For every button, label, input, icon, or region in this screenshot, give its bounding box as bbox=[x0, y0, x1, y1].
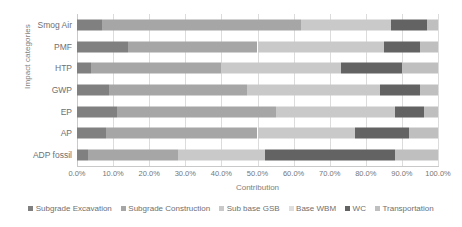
bar-segment bbox=[117, 106, 276, 117]
x-axis-tick-labels: 0.0%10.0%20.0%30.0%40.0%50.0%60.0%70.0%8… bbox=[77, 169, 438, 183]
plot-area bbox=[77, 14, 438, 166]
bar-segment bbox=[77, 85, 109, 96]
legend-swatch-icon bbox=[345, 206, 350, 211]
legend-item[interactable]: Transportation bbox=[375, 204, 434, 213]
bar-row bbox=[77, 106, 438, 117]
x-axis-tick-label: 100.0% bbox=[425, 169, 450, 178]
bar-segment bbox=[420, 41, 438, 52]
bar-segment bbox=[77, 19, 102, 30]
x-axis-tick-label: 0.0% bbox=[68, 169, 85, 178]
bar-segment bbox=[247, 85, 381, 96]
legend-label: Transportation bbox=[382, 204, 433, 213]
bar-segment bbox=[77, 150, 88, 161]
legend-item[interactable]: Base WBM bbox=[289, 204, 337, 213]
y-axis-tick-label: AP bbox=[8, 128, 72, 138]
legend-swatch-icon bbox=[28, 206, 33, 211]
bar-row bbox=[77, 41, 438, 52]
bar-segment bbox=[77, 128, 106, 139]
y-axis-tick-label: GWP bbox=[8, 85, 72, 95]
x-axis-tick-label: 50.0% bbox=[247, 169, 268, 178]
y-axis-tick-label: ADP fossil bbox=[8, 150, 72, 160]
bar-segment bbox=[128, 41, 258, 52]
legend-item[interactable]: Sub base GSB bbox=[219, 204, 279, 213]
bar-segment bbox=[109, 85, 246, 96]
bar-segment bbox=[276, 106, 395, 117]
bar-segment bbox=[384, 41, 420, 52]
bar-segment bbox=[391, 19, 427, 30]
bar-segment bbox=[258, 128, 355, 139]
bar-segment bbox=[77, 41, 128, 52]
bar-row bbox=[77, 128, 438, 139]
bar-segment bbox=[102, 19, 301, 30]
legend-item[interactable]: Subgrade Excavation bbox=[28, 204, 112, 213]
y-axis-tick-label: HTP bbox=[8, 63, 72, 73]
bar-segment bbox=[380, 85, 420, 96]
bar-segment bbox=[427, 19, 438, 30]
bar-segment bbox=[395, 106, 424, 117]
bar-segment bbox=[106, 128, 258, 139]
bar-segment bbox=[395, 150, 438, 161]
x-axis-tick-label: 10.0% bbox=[102, 169, 123, 178]
bar-segment bbox=[88, 150, 178, 161]
x-axis-tick-label: 70.0% bbox=[319, 169, 340, 178]
x-axis-tick-label: 40.0% bbox=[211, 169, 232, 178]
legend-swatch-icon bbox=[375, 206, 380, 211]
x-axis-tick-label: 60.0% bbox=[283, 169, 304, 178]
x-axis-tick-label: 80.0% bbox=[355, 169, 376, 178]
bar-segment bbox=[91, 63, 221, 74]
y-axis-tick-label: Smog Air bbox=[8, 20, 72, 30]
x-axis-line bbox=[77, 166, 439, 167]
bar-segment bbox=[178, 150, 265, 161]
legend-item[interactable]: Subgrade Construction bbox=[121, 204, 210, 213]
y-axis-tick-labels: ADP fossilAPEPGWPHTPPMFSmog Air bbox=[8, 14, 72, 166]
legend-label: WC bbox=[353, 204, 366, 213]
x-axis-tick-label: 20.0% bbox=[139, 169, 160, 178]
stacked-bar-chart: Impact categories ADP fossilAPEPGWPHTPPM… bbox=[0, 0, 462, 227]
legend-swatch-icon bbox=[121, 206, 126, 211]
legend-label: Base WBM bbox=[296, 204, 336, 213]
bar-segment bbox=[420, 85, 438, 96]
chart-legend: Subgrade ExcavationSubgrade Construction… bbox=[0, 204, 462, 213]
gridline bbox=[438, 14, 439, 166]
bar-row bbox=[77, 63, 438, 74]
legend-label: Subgrade Construction bbox=[128, 204, 210, 213]
bar-segment bbox=[77, 106, 117, 117]
bar-segment bbox=[221, 63, 340, 74]
y-axis-tick-label: PMF bbox=[8, 42, 72, 52]
x-axis-tick-label: 90.0% bbox=[391, 169, 412, 178]
legend-item[interactable]: WC bbox=[345, 204, 366, 213]
legend-swatch-icon bbox=[219, 206, 224, 211]
bar-segment bbox=[424, 106, 438, 117]
bar-row bbox=[77, 19, 438, 30]
bar-segment bbox=[355, 128, 409, 139]
legend-label: Subgrade Excavation bbox=[36, 204, 112, 213]
x-axis-tick-label: 30.0% bbox=[175, 169, 196, 178]
legend-swatch-icon bbox=[289, 206, 294, 211]
bar-segment bbox=[301, 19, 391, 30]
bar-row bbox=[77, 85, 438, 96]
y-axis-tick-label: EP bbox=[8, 107, 72, 117]
legend-label: Sub base GSB bbox=[227, 204, 280, 213]
bar-segment bbox=[402, 63, 438, 74]
bar-segment bbox=[409, 128, 438, 139]
bar-series-container bbox=[77, 14, 438, 166]
bar-segment bbox=[265, 150, 395, 161]
x-axis-title: Contribution bbox=[77, 183, 438, 192]
bar-segment bbox=[258, 41, 384, 52]
bar-row bbox=[77, 150, 438, 161]
bar-segment bbox=[77, 63, 91, 74]
bar-segment bbox=[341, 63, 402, 74]
